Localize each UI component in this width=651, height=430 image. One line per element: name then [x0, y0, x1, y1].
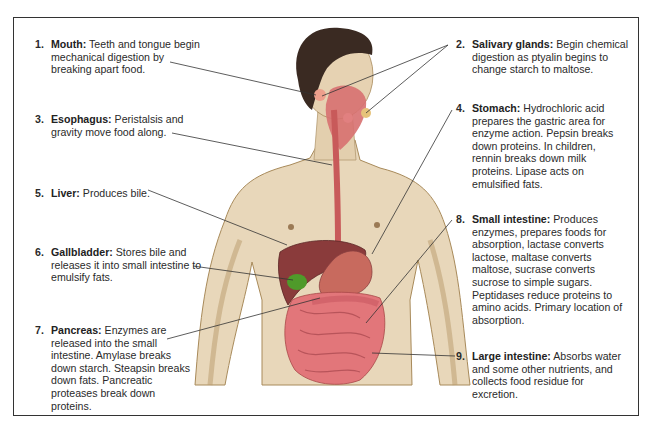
intestines — [285, 292, 385, 384]
label-title: Mouth: — [51, 38, 86, 50]
label-title: Small intestine: — [472, 213, 550, 225]
label-esophagus: 3. Esophagus: Peristalsis and gravity mo… — [35, 113, 205, 138]
label-pancreas: 7. Pancreas: Enzymes are released into t… — [35, 324, 195, 412]
label-number: 4. — [456, 102, 465, 115]
label-salivary-glands: 2. Salivary glands: Begin chemical diges… — [456, 38, 631, 76]
label-small-intestine: 8. Small intestine: Produces enzymes, pr… — [456, 213, 628, 326]
label-gallbladder: 6. Gallbladder: Stores bile and releases… — [35, 246, 205, 284]
label-mouth: 1. Mouth: Teeth and tongue begin mechani… — [35, 38, 205, 76]
label-text: Produces enzymes, prepares foods for abs… — [472, 213, 622, 326]
label-title: Pancreas: — [51, 324, 102, 336]
label-liver: 5. Liver: Produces bile. — [35, 187, 205, 200]
label-number: 9. — [456, 350, 465, 363]
label-title: Salivary glands: — [472, 38, 553, 50]
label-text: Hydrochloric acid prepares the gastric a… — [472, 102, 613, 190]
label-number: 5. — [35, 187, 44, 200]
label-title: Stomach: — [472, 102, 520, 114]
label-title: Large intestine: — [472, 350, 551, 362]
label-number: 3. — [35, 113, 44, 126]
label-number: 8. — [456, 213, 465, 226]
label-title: Liver: — [51, 187, 80, 199]
label-title: Gallbladder: — [51, 246, 113, 258]
label-number: 1. — [35, 38, 44, 51]
label-number: 6. — [35, 246, 44, 259]
label-text: Enzymes are released into the small inte… — [51, 324, 190, 412]
label-large-intestine: 9. Large intestine: Absorbs water and so… — [456, 350, 624, 400]
label-number: 2. — [456, 38, 465, 51]
label-stomach: 4. Stomach: Hydrochloric acid prepares t… — [456, 102, 628, 190]
label-title: Esophagus: — [51, 113, 112, 125]
label-text: Produces bile. — [83, 187, 150, 199]
label-number: 7. — [35, 324, 44, 337]
gallbladder — [287, 274, 307, 290]
